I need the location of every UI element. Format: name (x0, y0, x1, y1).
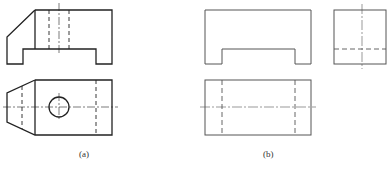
panel-b-front-view (205, 10, 311, 64)
panel-b-side-view (334, 4, 386, 69)
panel-a-top-view (3, 80, 118, 135)
panel-a-front-view (7, 3, 112, 64)
orthographic-drawing (0, 0, 392, 179)
panel-b-top-view (200, 80, 316, 135)
panel-b-label: (b) (263, 149, 274, 159)
panel-a-label: (a) (79, 149, 89, 159)
